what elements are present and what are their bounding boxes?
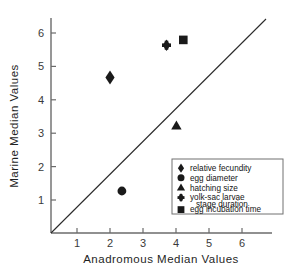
y-tick-label: 2 [38, 161, 44, 173]
x-tick-label: 4 [173, 237, 179, 249]
plot-canvas: 1 2 3 4 5 6 1 2 3 4 5 6 [0, 0, 292, 276]
x-axis-title: Anadromous Median Values [83, 253, 239, 265]
y-axis-title: Marine Median Values [8, 64, 20, 188]
legend-marker-square-icon [178, 206, 185, 213]
data-point-egg-diameter [118, 187, 127, 196]
y-axis-tick-labels: 1 2 3 4 5 6 [38, 27, 44, 206]
data-point-egg-incubation-time [179, 36, 188, 45]
x-tick-label: 6 [239, 237, 245, 249]
data-point-yolk-sac-larvae [162, 40, 171, 51]
legend-label-egg-incubation-time: egg incubation time [190, 205, 261, 214]
y-tick-label: 6 [38, 27, 44, 39]
x-tick-label: 5 [206, 237, 212, 249]
x-axis-ticks [77, 228, 242, 233]
legend-label-hatching-size: hatching size [190, 184, 238, 193]
y-tick-label: 4 [38, 94, 44, 106]
scatter-plot-figure: 1 2 3 4 5 6 1 2 3 4 5 6 [0, 0, 292, 276]
y-tick-label: 1 [38, 194, 44, 206]
legend: relative fecundity egg diameter hatching… [172, 159, 283, 214]
x-axis-tick-labels: 1 2 3 4 5 6 [74, 237, 245, 249]
y-axis-ticks [51, 33, 56, 200]
legend-label-relative-fecundity: relative fecundity [190, 164, 252, 173]
x-tick-label: 2 [107, 237, 113, 249]
x-tick-label: 1 [74, 237, 80, 249]
y-tick-label: 3 [38, 127, 44, 139]
y-tick-label: 5 [38, 60, 44, 72]
x-tick-label: 3 [140, 237, 146, 249]
data-point-relative-fecundity [105, 70, 114, 84]
legend-label-egg-diameter: egg diameter [190, 174, 238, 183]
data-point-hatching-size [171, 121, 181, 130]
legend-marker-circle-icon [178, 174, 185, 181]
